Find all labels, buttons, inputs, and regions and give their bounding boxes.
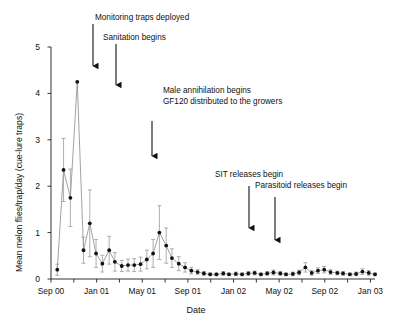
- x-tick-label: May 01: [129, 286, 156, 296]
- x-tick-label: Sep 01: [175, 286, 202, 296]
- plot-area: [0, 0, 393, 328]
- y-tick-label: 0: [26, 274, 40, 284]
- annotation-gf120: GF120 distributed to the growers: [163, 97, 282, 107]
- x-tick-label: Jan 03: [358, 286, 383, 296]
- x-tick-label: May 02: [265, 286, 292, 296]
- x-tick-label: Jan 01: [84, 286, 109, 296]
- y-tick-label: 5: [26, 42, 40, 52]
- y-tick-label: 4: [26, 88, 40, 98]
- y-tick-label: 1: [26, 228, 40, 238]
- y-tick-label: 2: [26, 181, 40, 191]
- annotation-male-annihilation: Male annihilation begins: [163, 86, 251, 96]
- annotation-sanitation: Sanitation begins: [103, 33, 166, 43]
- y-tick-label: 3: [26, 135, 40, 145]
- x-tick-label: Sep 00: [38, 286, 65, 296]
- annotation-sit-releases: SIT releases begin: [215, 170, 283, 180]
- x-tick-label: Sep 02: [312, 286, 339, 296]
- chart-figure: Mean melon flies/trap/day (cue-lure trap…: [0, 0, 393, 328]
- x-tick-label: Jan 02: [221, 286, 246, 296]
- annotation-parasitoid-releases: Parasitoid releases begin: [255, 181, 347, 191]
- annotation-monitoring-traps: Monitoring traps deployed: [95, 13, 189, 23]
